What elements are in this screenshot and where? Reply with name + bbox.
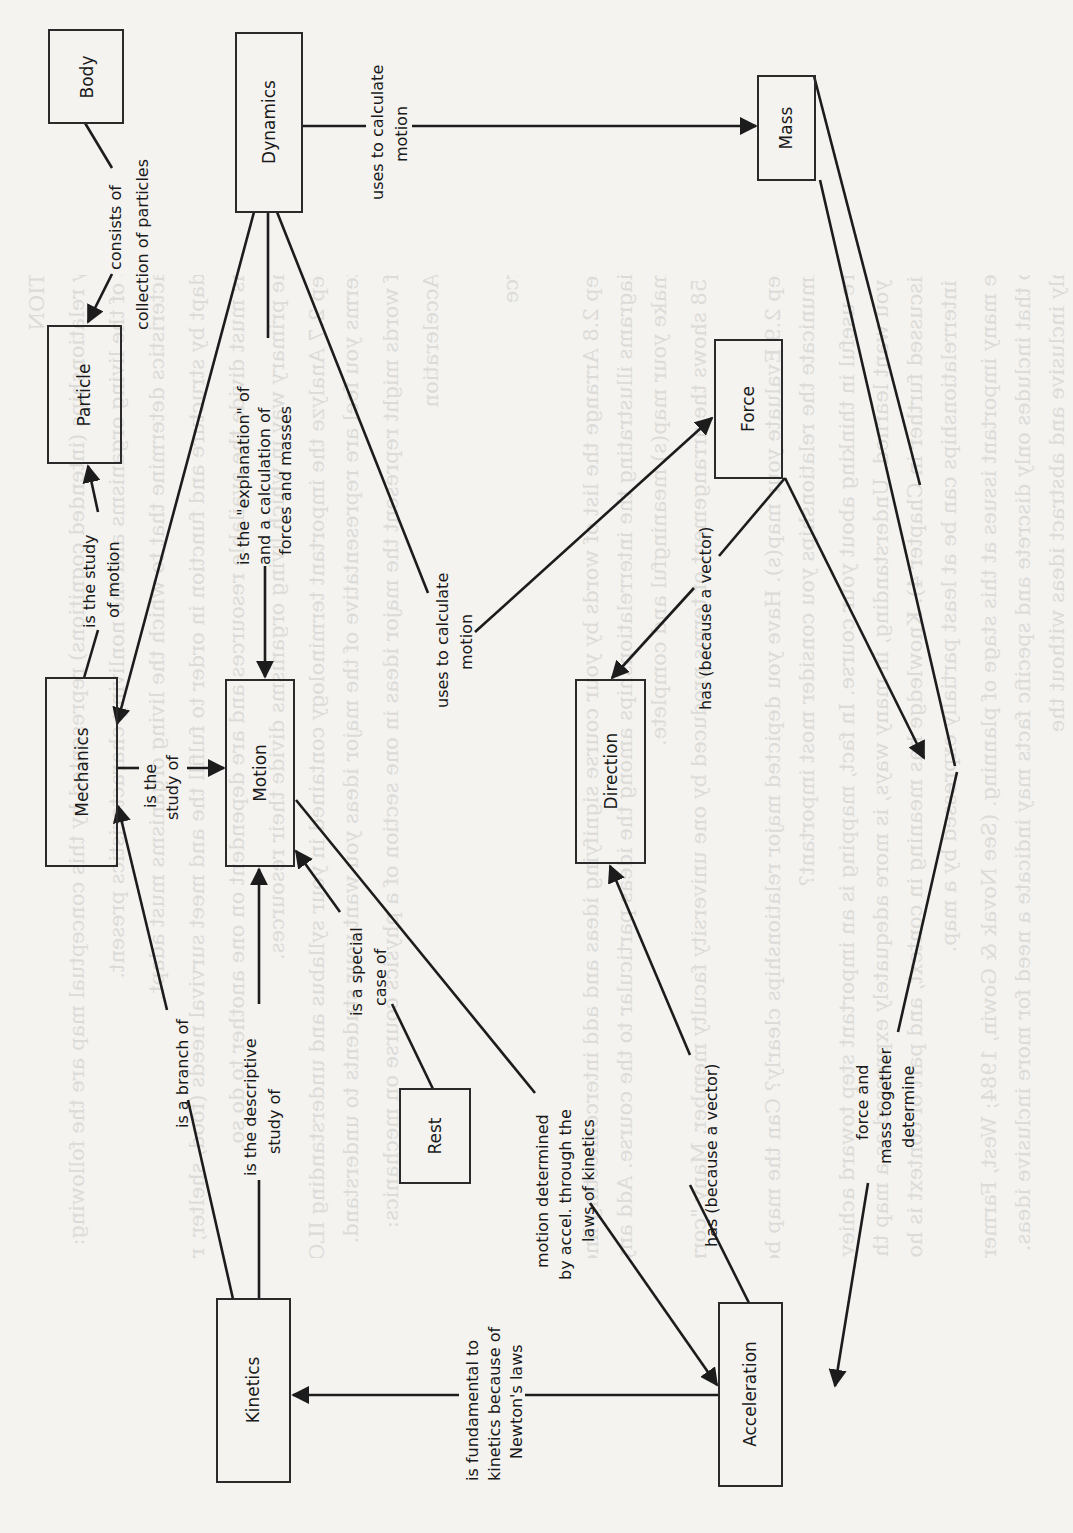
node-body: Body — [49, 30, 123, 123]
node-label: Acceleration — [740, 1341, 760, 1447]
edge-label: uses to calculate — [368, 65, 387, 200]
svg-text:is the study of motion: is the study of motion — [80, 529, 123, 628]
node-label: Body — [77, 56, 97, 99]
edge-label: uses to calculate — [433, 573, 452, 708]
svg-text:is the descriptive stu: is the descriptive study of — [241, 1033, 284, 1176]
edge-dynamics-mass: uses to calculate motion — [302, 60, 756, 200]
node-label: Kinetics — [243, 1357, 263, 1424]
edge-label: study of — [265, 1089, 284, 1154]
edge-kinetics-motion: is the descriptive study of — [241, 869, 284, 1299]
svg-text:has (because a vector): has (because a vector) — [702, 1064, 721, 1248]
edge-label: is the descriptive — [241, 1038, 260, 1176]
svg-text:is fundamental to kine: is fundamental to kinetics because of Ne… — [463, 1322, 526, 1481]
edge-label: collection of particles — [133, 159, 152, 330]
edge-label: consists of — [106, 185, 125, 270]
edge-label: forces and masses — [276, 406, 295, 555]
node-label: Direction — [601, 733, 621, 810]
edge-label: Newton's laws — [507, 1344, 526, 1459]
node-acceleration: Acceleration — [719, 1303, 782, 1486]
node-direction: Direction — [576, 680, 645, 863]
svg-text:uses to calculate moti: uses to calculate motion — [433, 568, 476, 708]
edge-label: case of — [371, 948, 390, 1006]
edge-acceleration-kinetics: is fundamental to kinetics because of Ne… — [293, 1322, 719, 1481]
edge-dynamics-force: uses to calculate motion — [277, 212, 712, 708]
edge-label: motion determined — [533, 1114, 552, 1268]
bleed-line: Maps can illuminate many important issue… — [972, 275, 1073, 1258]
node-label: Dynamics — [259, 80, 279, 164]
edge-label: is the study — [80, 534, 99, 628]
edge-label: has (because a vector) — [696, 527, 715, 711]
edge-label: is a special — [347, 927, 366, 1016]
edge-label: and a calculation of — [255, 407, 274, 565]
edge-dynamics-motion: is the "explanation" of and a calculatio… — [234, 212, 295, 677]
node-label: Particle — [74, 364, 94, 427]
edge-label: is the — [141, 764, 160, 808]
node-label: Motion — [250, 744, 270, 802]
node-label: Rest — [425, 1117, 445, 1154]
edge-label: of motion — [104, 541, 123, 618]
edge-label: motion — [457, 614, 476, 670]
node-rest: Rest — [400, 1089, 470, 1183]
node-label: Mass — [776, 106, 796, 149]
edge-label: is a branch of — [173, 1019, 192, 1128]
edge-force-direction-label: has (because a vector) — [696, 527, 715, 711]
svg-text:is a special case of: is a special case of — [347, 922, 390, 1016]
svg-text:is the "explanation" of: is the "explanation" of and a calculatio… — [234, 381, 295, 565]
edge-label: is the "explanation" of — [234, 386, 253, 565]
edge-kinetics-mechanics: is a branch of — [118, 806, 233, 1299]
edge-body-particle: consists of collection of particles — [85, 123, 152, 330]
svg-text:force and mass togethe: force and mass together determine — [853, 1043, 918, 1164]
edge-rest-motion: is a special case of — [296, 851, 433, 1089]
svg-text:is a branch of: is a branch of — [173, 1019, 192, 1128]
node-force: Force — [715, 340, 782, 478]
node-kinetics: Kinetics — [217, 1299, 290, 1482]
node-mass: Mass — [758, 76, 815, 180]
edge-label: mass together — [876, 1048, 895, 1164]
edge-mechanics-particle: is the study of motion — [80, 466, 123, 678]
edge-label: by accel. through the — [556, 1109, 575, 1280]
edge-label: has (because a vector) — [702, 1064, 721, 1248]
node-motion: Motion — [226, 680, 294, 866]
edge-force-mass-acceleration: force and mass together determine — [785, 76, 957, 1386]
edge-acceleration-direction: has (because a vector) — [610, 866, 749, 1303]
svg-text:motion determined by a: motion determined by accel. through the … — [533, 1104, 598, 1280]
node-label: Mechanics — [72, 727, 92, 817]
edge-acceleration-motion: motion determined by accel. through the … — [296, 800, 717, 1385]
svg-text:consists of collection: consists of collection of particles — [106, 159, 152, 330]
node-mechanics: Mechanics — [46, 678, 117, 866]
node-dynamics: Dynamics — [236, 33, 302, 212]
edge-label: study of — [163, 755, 182, 820]
node-label: Force — [738, 386, 758, 432]
edge-label: laws of kinetics — [579, 1119, 598, 1242]
edge-label: determine — [899, 1066, 918, 1148]
svg-text:uses to calculate moti: uses to calculate motion — [368, 60, 411, 200]
edge-label: motion — [392, 106, 411, 162]
edge-mechanics-motion: is the study of — [117, 755, 224, 820]
node-particle: Particle — [48, 326, 121, 463]
edge-label: is fundamental to — [463, 1340, 482, 1481]
edge-label: force and — [853, 1065, 872, 1140]
svg-text:is the study of: is the study of — [141, 755, 182, 820]
edge-label: kinetics because of — [485, 1327, 504, 1481]
